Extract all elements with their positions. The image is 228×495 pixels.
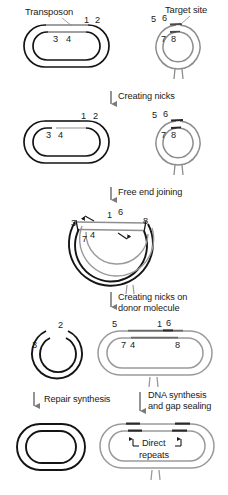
step-free-end-joining: Free end joining	[118, 188, 182, 198]
stage2-target-molecule	[156, 120, 200, 175]
annotation-direct-line2: repeats	[139, 451, 169, 461]
stage2-donor-number-3: 3	[46, 131, 51, 141]
step-creating-nicks: Creating nicks	[118, 92, 175, 102]
stage1-target-number-5: 5	[151, 15, 156, 25]
stage2-target-number-8: 8	[171, 131, 176, 141]
transposition-diagram: Transposon Target site 1 2 3 4 5 6 7 8 C…	[0, 0, 228, 495]
step-creating-nicks-donor-line1: Creating nicks on	[118, 293, 187, 303]
stage4-target-number-6: 6	[166, 319, 171, 329]
stage4-target-number-8: 8	[175, 341, 180, 351]
stage3-number-8: 8	[143, 217, 148, 227]
stage3-number-7: 7	[82, 235, 87, 245]
stage1-target-number-7: 7	[161, 35, 166, 45]
stage2-donor-molecule	[24, 121, 109, 163]
stage5-donor-molecule	[17, 424, 85, 470]
stage4-target-number-1: 1	[157, 320, 162, 330]
stage1-donor-number-4: 4	[66, 35, 71, 45]
stage1-target-number-6: 6	[162, 14, 167, 24]
step-repair-synthesis: Repair synthesis	[44, 395, 110, 405]
stage2-target-number-6: 6	[163, 110, 168, 120]
header-transposon: Transposon	[25, 7, 73, 17]
stage3-number-3: 3	[71, 219, 76, 229]
step-dna-synthesis-line1: DNA synthesis	[148, 391, 206, 401]
stage1-donor-number-1: 1	[84, 16, 89, 26]
stage1-target-number-8: 8	[171, 35, 176, 45]
stage3-joined-intermediate	[69, 216, 154, 294]
stage4-donor-number-3: 3	[32, 341, 37, 351]
step-dna-synthesis-line2: and gap sealing	[148, 402, 211, 412]
stage2-donor-number-2: 2	[93, 112, 98, 122]
stage2-target-number-7: 7	[161, 131, 166, 141]
stage3-number-1: 1	[107, 211, 112, 221]
stage2-donor-number-1: 1	[81, 112, 86, 122]
stage3-number-4: 4	[90, 231, 95, 241]
stage2-target-number-5: 5	[152, 111, 157, 121]
stage2-donor-number-4: 4	[58, 131, 63, 141]
stage1-target-molecule	[156, 16, 200, 79]
stage4-target-number-7: 7	[121, 341, 126, 351]
stage1-donor-number-2: 2	[95, 16, 100, 26]
annotation-direct-line1: Direct	[142, 439, 165, 449]
stage4-target-number-5: 5	[112, 320, 117, 330]
header-target-site: Target site	[165, 5, 207, 15]
stage4-donor-number-2: 2	[58, 321, 63, 331]
stage4-cointegrate-molecule	[98, 330, 212, 387]
stage4-donor-molecule	[32, 331, 82, 378]
stage4-target-number-4: 4	[130, 341, 135, 351]
stage1-donor-number-3: 3	[53, 35, 58, 45]
step-creating-nicks-donor-line2: donor molecule	[118, 304, 179, 314]
diagram-canvas	[0, 0, 228, 495]
stage3-number-6: 6	[118, 208, 123, 218]
